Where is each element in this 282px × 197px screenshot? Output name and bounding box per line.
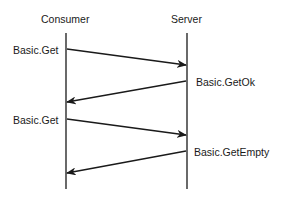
sequence-diagram bbox=[0, 0, 282, 197]
message-label-2: Basic.GetOk bbox=[196, 76, 255, 88]
participant-consumer: Consumer bbox=[41, 13, 89, 25]
message-arrow-3 bbox=[67, 119, 186, 135]
message-arrow-2 bbox=[67, 81, 186, 102]
message-label-1: Basic.Get bbox=[13, 44, 59, 56]
message-arrow-4 bbox=[67, 151, 186, 173]
message-label-3: Basic.Get bbox=[13, 114, 59, 126]
message-arrow-1 bbox=[67, 49, 186, 65]
participant-server: Server bbox=[171, 13, 202, 25]
message-label-4: Basic.GetEmpty bbox=[194, 146, 269, 158]
